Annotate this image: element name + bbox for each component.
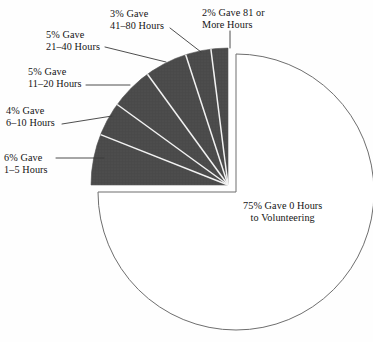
pie-label-41-80-percent: 3% Gave bbox=[110, 8, 164, 20]
pie-label-41-80-range: 41–80 Hours bbox=[110, 20, 164, 32]
pie-label-81-plus-range: More Hours bbox=[202, 19, 265, 31]
pie-chart-figure: 6% Gave 1–5 Hours 4% Gave 6–10 Hours 5% … bbox=[0, 0, 373, 342]
pie-label-0-hours-range: to Volunteering bbox=[243, 212, 322, 224]
pie-label-6-10-percent: 4% Gave bbox=[6, 105, 55, 117]
leader-line-6-10 bbox=[62, 116, 112, 124]
pie-label-41-80-hours: 3% Gave 41–80 Hours bbox=[110, 8, 164, 32]
pie-label-1-5-percent: 6% Gave bbox=[4, 152, 48, 164]
pie-label-11-20-range: 11–20 Hours bbox=[28, 78, 82, 90]
pie-label-1-5-range: 1–5 Hours bbox=[4, 164, 48, 176]
pie-label-21-40-percent: 5% Gave bbox=[46, 29, 100, 41]
pie-label-11-20-hours: 5% Gave 11–20 Hours bbox=[28, 66, 82, 90]
pie-label-6-10-range: 6–10 Hours bbox=[6, 117, 55, 129]
pie-label-0-hours: 75% Gave 0 Hours to Volunteering bbox=[243, 200, 322, 224]
pie-label-11-20-percent: 5% Gave bbox=[28, 66, 82, 78]
pie-label-21-40-range: 21–40 Hours bbox=[46, 41, 100, 53]
pie-label-81-or-more-hours: 2% Gave 81 or More Hours bbox=[202, 7, 265, 31]
leader-line-21-40 bbox=[105, 47, 166, 62]
pie-label-1-5-hours: 6% Gave 1–5 Hours bbox=[4, 152, 48, 176]
pie-label-81-plus-percent: 2% Gave 81 or bbox=[202, 7, 265, 19]
pie-label-6-10-hours: 4% Gave 6–10 Hours bbox=[6, 105, 55, 129]
pie-label-0-hours-percent: 75% Gave 0 Hours bbox=[243, 200, 322, 212]
leader-line-41-80 bbox=[170, 28, 201, 52]
pie-label-21-40-hours: 5% Gave 21–40 Hours bbox=[46, 29, 100, 53]
